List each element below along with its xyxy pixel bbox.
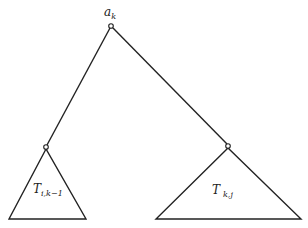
tree-diagram: ak Ti,k−1 Tk,j (0, 0, 308, 228)
edge-root-left (47, 28, 110, 145)
right-subtree-triangle (156, 148, 301, 219)
root-label: ak (104, 5, 116, 21)
edge-root-right (113, 28, 227, 144)
left-node (44, 145, 49, 150)
root-node (109, 24, 114, 29)
left-subtree-label: Ti,k−1 (33, 182, 63, 198)
right-subtree-label: Tk,j (212, 183, 233, 199)
right-node (226, 144, 231, 149)
left-subtree-triangle (9, 149, 86, 219)
